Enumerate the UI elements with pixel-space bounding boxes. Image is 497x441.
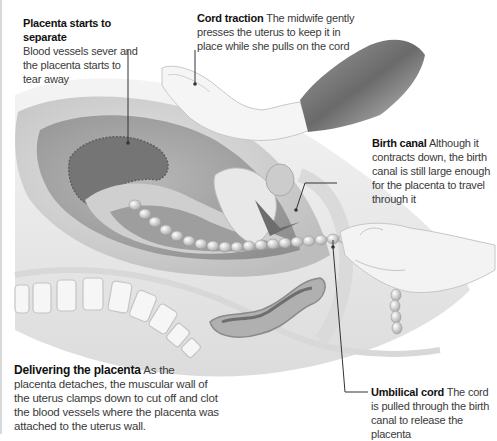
callout-delivering-placenta: Delivering the placenta As the placenta … xyxy=(14,363,219,433)
callout-placenta-separate: Placenta starts to separate Blood vessel… xyxy=(23,16,138,86)
callout-title: Umbilical cord xyxy=(371,386,444,398)
callout-title: Delivering the placenta xyxy=(14,363,141,377)
callout-title: Placenta starts to separate xyxy=(23,16,138,44)
callout-cord-traction: Cord traction The midwife gently presses… xyxy=(197,11,357,53)
callout-title: Cord traction xyxy=(197,12,263,24)
callout-umbilical-cord: Umbilical cord The cord is pulled throug… xyxy=(371,385,491,441)
callout-body: Blood vessels sever and the placenta sta… xyxy=(23,44,138,86)
callout-birth-canal: Birth canal Although it contracts down, … xyxy=(372,136,494,206)
hand-on-uterus xyxy=(162,40,425,141)
callout-title: Birth canal xyxy=(372,137,427,149)
